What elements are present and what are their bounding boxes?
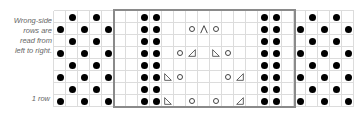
- chart-cell: [246, 71, 258, 83]
- chart-cell: [342, 59, 354, 71]
- chart-cell: [66, 71, 78, 83]
- purl-dot-icon: [54, 23, 66, 35]
- chart-cell: [162, 47, 174, 59]
- purl-dot-icon: [330, 83, 342, 95]
- chart-cell: [234, 47, 246, 59]
- purl-dot-icon: [66, 83, 78, 95]
- note-line: rows are: [0, 26, 52, 36]
- purl-dot-icon: [66, 59, 78, 71]
- purl-dot-icon: [318, 23, 330, 35]
- purl-dot-icon: [306, 11, 318, 23]
- chart-cell: [246, 35, 258, 47]
- chart-cell: [234, 11, 246, 23]
- chart-cell: [186, 59, 198, 71]
- purl-dot-icon: [342, 95, 354, 107]
- note-line: Wrong-side: [0, 16, 52, 26]
- chart-cell: [78, 83, 90, 95]
- purl-dot-icon: [294, 71, 306, 83]
- chart-cell: [198, 47, 210, 59]
- purl-dot-icon: [258, 11, 270, 23]
- purl-dot-icon: [306, 59, 318, 71]
- chart-cell: [54, 83, 66, 95]
- chart-cell: [78, 11, 90, 23]
- k2tog-decrease-icon: [234, 95, 246, 107]
- purl-dot-icon: [342, 71, 354, 83]
- yarn-over-icon: [210, 95, 222, 107]
- chart-cell: [222, 83, 234, 95]
- chart-cell: [114, 95, 126, 107]
- purl-dot-icon: [66, 35, 78, 47]
- purl-dot-icon: [90, 59, 102, 71]
- chart-cell: [174, 95, 186, 107]
- chart-cell: [318, 11, 330, 23]
- chart-cell: [246, 47, 258, 59]
- chart-cell: [318, 35, 330, 47]
- purl-dot-icon: [270, 11, 282, 23]
- yarn-over-icon: [174, 71, 186, 83]
- purl-dot-icon: [330, 35, 342, 47]
- chart-cell: [222, 23, 234, 35]
- chart-cell: [186, 71, 198, 83]
- purl-dot-icon: [78, 47, 90, 59]
- purl-dot-icon: [90, 11, 102, 23]
- chart-cell: [102, 11, 114, 23]
- purl-dot-icon: [258, 23, 270, 35]
- chart-cell: [114, 11, 126, 23]
- chart-cell: [342, 11, 354, 23]
- chart-cell: [162, 23, 174, 35]
- chart-cell: [126, 59, 138, 71]
- chart-cell: [282, 11, 294, 23]
- chart-cell: [282, 35, 294, 47]
- chart-cell: [282, 47, 294, 59]
- chart-cell: [306, 23, 318, 35]
- chart-cell: [114, 23, 126, 35]
- chart-cell: [234, 23, 246, 35]
- chart-cell: [282, 23, 294, 35]
- purl-dot-icon: [330, 11, 342, 23]
- chart-cell: [198, 95, 210, 107]
- chart-cell: [126, 95, 138, 107]
- chart-cell: [246, 23, 258, 35]
- chart-cell: [186, 11, 198, 23]
- purl-dot-icon: [150, 23, 162, 35]
- chart-cell: [210, 35, 222, 47]
- chart-cell: [162, 11, 174, 23]
- chart-cell: [282, 59, 294, 71]
- yarn-over-icon: [186, 95, 198, 107]
- chart-cell: [186, 35, 198, 47]
- chart-cell: [198, 35, 210, 47]
- chart-cell: [90, 95, 102, 107]
- chart-cell: [210, 71, 222, 83]
- chart-cell: [114, 71, 126, 83]
- purl-dot-icon: [138, 35, 150, 47]
- chart-cell: [198, 71, 210, 83]
- chart-cell: [222, 95, 234, 107]
- chart-cell: [342, 83, 354, 95]
- purl-dot-icon: [270, 23, 282, 35]
- ssk-decrease-icon: [210, 47, 222, 59]
- chart-cell: [222, 59, 234, 71]
- chart-cell: [162, 59, 174, 71]
- chart-cell: [54, 59, 66, 71]
- chart-cell: [210, 59, 222, 71]
- chart-cell: [174, 83, 186, 95]
- chart-cell: [198, 83, 210, 95]
- ssk-decrease-icon: [162, 95, 174, 107]
- k2tog-decrease-icon: [234, 71, 246, 83]
- yarn-over-icon: [222, 47, 234, 59]
- purl-dot-icon: [306, 35, 318, 47]
- chart-cell: [282, 71, 294, 83]
- row-1-label: 1 row: [0, 94, 50, 103]
- note-line: read from: [0, 36, 52, 46]
- k2tog-decrease-icon: [186, 47, 198, 59]
- purl-dot-icon: [102, 71, 114, 83]
- chart-cell: [282, 83, 294, 95]
- chart-cell: [210, 11, 222, 23]
- chart-cell: [174, 59, 186, 71]
- chart-cell: [66, 47, 78, 59]
- chart-cell: [330, 71, 342, 83]
- purl-dot-icon: [294, 23, 306, 35]
- chart-cell: [306, 71, 318, 83]
- yarn-over-icon: [186, 23, 198, 35]
- chart-cell: [306, 95, 318, 107]
